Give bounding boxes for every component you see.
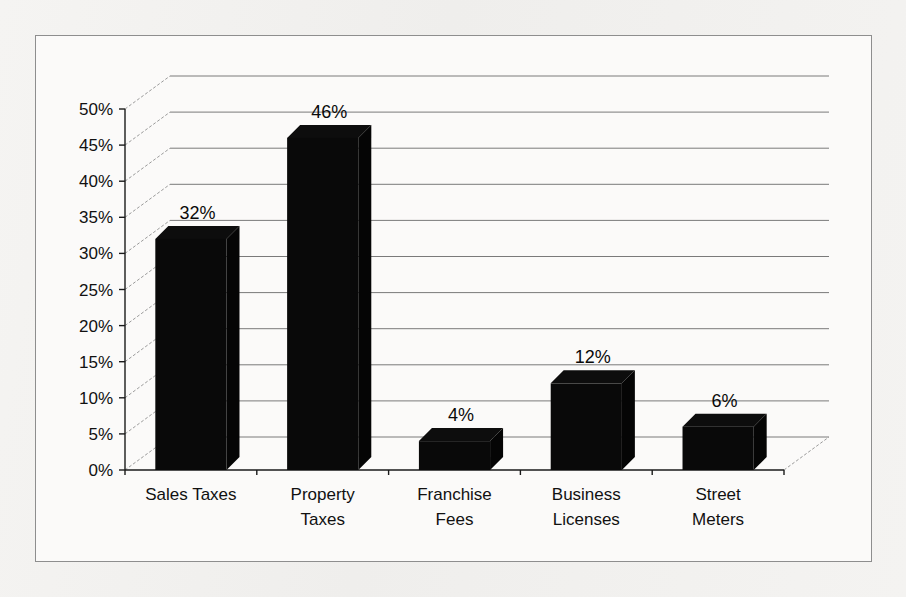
bar-top-face xyxy=(155,226,239,239)
category-axis-tick-label: Property xyxy=(291,485,356,504)
category-axis xyxy=(125,470,784,475)
bar-column xyxy=(419,428,503,470)
category-axis-tick-label: Licenses xyxy=(553,510,620,529)
bar-value-labels: 32%46%4%12%6% xyxy=(179,102,737,425)
bar-front-face xyxy=(683,427,754,470)
bar-value-label: 4% xyxy=(448,405,474,425)
category-axis-tick-labels: Sales TaxesPropertyTaxesFranchiseFeesBus… xyxy=(145,485,744,529)
category-axis-tick-label: Franchise xyxy=(417,485,492,504)
bar-front-face xyxy=(419,441,490,470)
gridline-depth-connector xyxy=(125,148,170,181)
chart-plot-area: 0%5%10%15%20%25%30%35%40%45%50% 32%46%4%… xyxy=(36,36,871,561)
bar-top-face xyxy=(551,370,635,383)
value-axis-tick-label: 40% xyxy=(79,172,113,191)
bar-side-face xyxy=(226,226,239,470)
value-axis-tick-label: 50% xyxy=(79,100,113,119)
bar-column xyxy=(551,370,635,470)
value-axis-tick-label: 10% xyxy=(79,389,113,408)
value-axis-tick-label: 20% xyxy=(79,317,113,336)
value-axis-tick-labels: 0%5%10%15%20%25%30%35%40%45%50% xyxy=(79,100,125,480)
bar-value-label: 46% xyxy=(311,102,347,122)
category-axis-tick-label: Sales Taxes xyxy=(145,485,236,504)
floor-depth-edge xyxy=(784,437,829,470)
gridline-depth-connector xyxy=(125,76,170,109)
bar-value-label: 12% xyxy=(575,347,611,367)
bar-value-label: 6% xyxy=(712,391,738,411)
category-axis-tick-label: Business xyxy=(552,485,621,504)
bar-side-face xyxy=(622,370,635,470)
bar-front-face xyxy=(155,239,226,470)
bar-side-face xyxy=(358,125,371,470)
category-axis-tick-label: Fees xyxy=(436,510,474,529)
value-axis-tick-label: 5% xyxy=(88,425,113,444)
value-axis-tick-label: 25% xyxy=(79,281,113,300)
bar-chart-3d: 0%5%10%15%20%25%30%35%40%45%50% 32%46%4%… xyxy=(36,36,871,561)
category-axis-tick-label: Meters xyxy=(692,510,744,529)
bar-front-face xyxy=(287,138,358,470)
bar-column xyxy=(287,125,371,470)
bar-top-face xyxy=(287,125,371,138)
bar-value-label: 32% xyxy=(179,203,215,223)
bar-column xyxy=(683,414,767,470)
gridline-depth-connector xyxy=(125,112,170,145)
value-axis-tick-label: 35% xyxy=(79,208,113,227)
bar-top-face xyxy=(419,428,503,441)
value-axis-tick-label: 30% xyxy=(79,244,113,263)
bar-front-face xyxy=(551,383,622,470)
bar-column xyxy=(155,226,239,470)
gridline-depth-connector xyxy=(125,184,170,217)
value-axis-tick-label: 45% xyxy=(79,136,113,155)
category-axis-tick-label: Street xyxy=(695,485,741,504)
bar-top-face xyxy=(683,414,767,427)
value-axis-tick-label: 15% xyxy=(79,353,113,372)
category-axis-tick-label: Taxes xyxy=(300,510,344,529)
chart-frame: 0%5%10%15%20%25%30%35%40%45%50% 32%46%4%… xyxy=(35,35,872,562)
value-axis-tick-label: 0% xyxy=(88,461,113,480)
